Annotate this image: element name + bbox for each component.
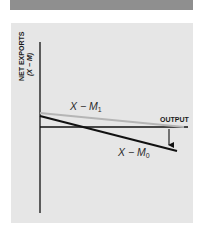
curve-x-m0 bbox=[40, 116, 177, 151]
curve-label-x-m0: X − M0 bbox=[117, 146, 150, 159]
y-axis-label-line1: NET EXPORTS bbox=[18, 31, 25, 81]
net-exports-diagram: NET EXPORTS (X − M) OUTPUT X − M1 X − M0 bbox=[0, 0, 202, 226]
y-axis-label-line2: (X − M) bbox=[26, 52, 34, 76]
curve-label-x-m1: X − M1 bbox=[69, 100, 102, 113]
x-axis-label: OUTPUT bbox=[160, 116, 190, 123]
